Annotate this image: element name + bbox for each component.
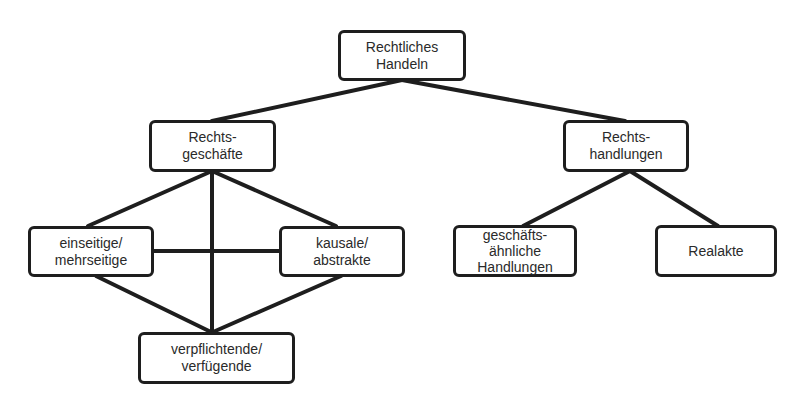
node-einseitige-mehrseitige: einseitige/ mehrseitige — [28, 226, 154, 277]
node-geschaeftsaehnliche-handlungen: geschäfts- ähnliche Handlungen — [453, 225, 577, 277]
node-rechtshandlungen: Rechts- handlungen — [563, 120, 689, 172]
edge-rechtsgeschaefte-kausale — [212, 171, 336, 226]
edge-root-rechtsgeschaefte — [212, 80, 402, 121]
edge-rechtsgeschaefte-einseitige — [88, 171, 212, 226]
edge-kausale-verpflichtende — [213, 276, 341, 332]
edge-rechtshandlungen-geschaeftsaehnliche — [523, 171, 630, 226]
node-label: einseitige/ mehrseitige — [55, 235, 127, 269]
node-label: verpflichtende/ verfügende — [171, 341, 262, 375]
edge-root-rechtshandlungen — [402, 80, 625, 121]
node-label: kausale/ abstrakte — [313, 235, 371, 269]
node-rechtliches-handeln: Rechtliches Handeln — [338, 30, 466, 81]
node-label: Rechts- handlungen — [589, 129, 662, 163]
node-label: geschäfts- ähnliche Handlungen — [477, 227, 553, 275]
edge-einseitige-verpflichtende — [96, 276, 211, 332]
node-label: Realakte — [688, 243, 743, 260]
node-label: Rechts- geschäfte — [182, 129, 243, 163]
node-label: Rechtliches Handeln — [366, 39, 438, 73]
node-realakte: Realakte — [655, 225, 777, 277]
edge-rechtshandlungen-realakte — [630, 171, 718, 226]
node-kausale-abstrakte: kausale/ abstrakte — [279, 226, 405, 277]
node-rechtsgeschaefte: Rechts- geschäfte — [149, 120, 276, 172]
node-verpflichtende-verfuegende: verpflichtende/ verfügende — [138, 332, 295, 384]
